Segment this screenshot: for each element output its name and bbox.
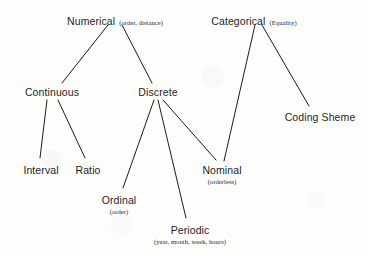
node-ordinal-annotation: (order) xyxy=(102,207,137,216)
node-categorical-annotation: (Equality) xyxy=(269,19,296,26)
node-coding-sheme-label: Coding Sheme xyxy=(285,111,356,123)
node-ratio: Ratio xyxy=(75,164,100,176)
edge-numerical-to-continuous xyxy=(62,25,108,83)
node-periodic-annotation: (year, month, week, hours) xyxy=(154,237,226,246)
edge-discrete-to-periodic xyxy=(158,100,186,218)
node-categorical-row: Categorical(Equality) xyxy=(211,11,296,29)
edge-numerical-to-discrete xyxy=(122,25,152,83)
node-periodic: Periodic (year, month, week, hours) xyxy=(154,224,226,246)
node-nominal-annotation: (orderless) xyxy=(202,177,241,186)
node-ratio-label: Ratio xyxy=(75,164,100,176)
edge-categorical-to-nominal xyxy=(224,25,255,161)
node-periodic-label: Periodic xyxy=(154,224,226,236)
edge-continuous-to-interval xyxy=(40,100,47,158)
edge-categorical-to-coding-sheme xyxy=(262,25,309,106)
node-coding-sheme: Coding Sheme xyxy=(285,111,356,123)
taxonomy-diagram: Numerical(order, distance) Categorical(E… xyxy=(0,0,367,256)
node-continuous-label: Continuous xyxy=(25,86,79,98)
node-continuous: Continuous xyxy=(25,86,79,98)
node-numerical-row: Numerical(order, distance) xyxy=(67,11,163,29)
node-numerical: Numerical(order, distance) xyxy=(67,11,163,29)
node-ordinal: Ordinal (order) xyxy=(102,194,137,216)
node-numerical-label: Numerical xyxy=(67,15,115,27)
node-categorical: Categorical(Equality) xyxy=(211,11,296,29)
edge-layer xyxy=(0,0,367,256)
node-interval: Interval xyxy=(23,164,58,176)
node-categorical-label: Categorical xyxy=(211,15,265,27)
node-interval-label: Interval xyxy=(23,164,58,176)
node-numerical-annotation: (order, distance) xyxy=(119,19,163,26)
node-nominal: Nominal (orderless) xyxy=(202,164,241,186)
node-discrete-label: Discrete xyxy=(138,86,177,98)
node-nominal-label: Nominal xyxy=(202,164,241,176)
node-ordinal-label: Ordinal xyxy=(102,194,137,206)
edge-discrete-to-nominal xyxy=(163,100,216,160)
edge-discrete-to-ordinal xyxy=(123,100,154,188)
edge-continuous-to-ratio xyxy=(58,100,85,158)
node-discrete: Discrete xyxy=(138,86,177,98)
